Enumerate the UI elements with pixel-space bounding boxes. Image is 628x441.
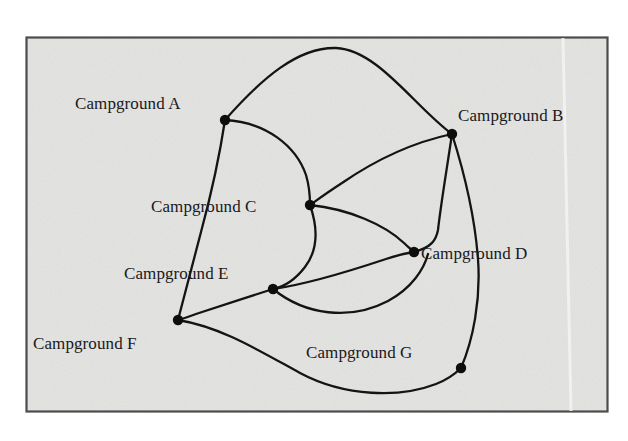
graph-node-c[interactable] (305, 200, 315, 210)
node-label-g: Campground G (306, 344, 413, 361)
graph-node-d[interactable] (409, 247, 419, 257)
graph-node-f[interactable] (173, 315, 183, 325)
node-label-f: Campground F (33, 335, 137, 352)
graph-node-g[interactable] (456, 363, 466, 373)
graph-node-a[interactable] (220, 115, 230, 125)
graph-canvas (0, 0, 628, 441)
node-label-b: Campground B (458, 107, 564, 124)
node-label-d: Campground D (421, 245, 528, 262)
node-label-c: Campground C (151, 198, 257, 215)
graph-diagram-scene: Campground ACampground BCampground CCamp… (0, 0, 628, 441)
node-label-e: Campground E (124, 265, 229, 282)
graph-node-e[interactable] (268, 284, 278, 294)
node-label-a: Campground A (75, 95, 181, 112)
graph-node-b[interactable] (447, 129, 457, 139)
